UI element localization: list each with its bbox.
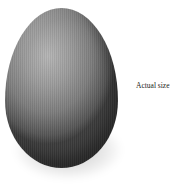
actual-size-caption: Actual size xyxy=(136,81,170,90)
egg-illustration xyxy=(5,8,118,168)
